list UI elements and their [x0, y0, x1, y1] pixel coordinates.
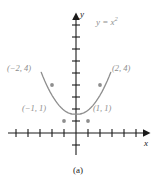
point-label-neg2-4: (−2, 4): [7, 64, 31, 73]
point-marker-neg1-1: [62, 119, 66, 123]
y-axis-label: y: [80, 10, 84, 19]
figure-caption: (a): [0, 166, 156, 175]
point-marker-pos2-4: [98, 83, 102, 87]
point-label-pos1-1: (1, 1): [93, 104, 111, 113]
y-axis-arrowhead: [72, 13, 80, 21]
coordinate-plot: [0, 0, 156, 184]
curve-equation-text: y = x: [96, 17, 115, 27]
curve-equation-label: y = x2: [96, 16, 118, 27]
x-axis-label: x: [144, 139, 148, 148]
parabola-figure: y = x2 (−2, 4) (2, 4) (−1, 1) (1, 1) y x…: [0, 0, 156, 184]
point-marker-pos1-1: [86, 119, 90, 123]
point-marker-neg2-4: [50, 83, 54, 87]
point-label-pos2-4: (2, 4): [112, 64, 130, 73]
curve-equation-exponent: 2: [115, 15, 118, 22]
x-axis-arrowhead: [143, 129, 151, 137]
point-label-neg1-1: (−1, 1): [22, 104, 46, 113]
